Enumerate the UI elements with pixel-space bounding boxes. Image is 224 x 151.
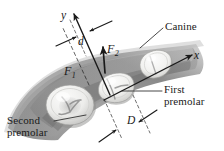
force-f1-label: F1 xyxy=(64,65,75,78)
canine-callout-label: Canine xyxy=(165,21,197,33)
D-dimension-label: D xyxy=(127,114,135,126)
first-premolar-callout-line2: premolar xyxy=(164,96,205,108)
D-dimension-arrow-right xyxy=(139,110,157,122)
d-dimension-arrow-left xyxy=(56,37,76,46)
force-f2-label: F2 xyxy=(107,43,118,56)
D-dimension-witness-right xyxy=(133,95,150,133)
force-f2-base: F xyxy=(107,42,114,56)
force-f2-subscript: 2 xyxy=(115,49,119,58)
force-f1-subscript: 1 xyxy=(72,71,76,80)
d-dimension-label: d xyxy=(78,35,84,47)
D-dimension-arrow-left xyxy=(99,130,116,142)
y-axis-label: y xyxy=(61,9,66,21)
dental-arch-figure: y x d D F2 F1 Canine First premolar Seco… xyxy=(0,0,224,151)
force-f1-base: F xyxy=(64,64,71,78)
second-premolar-callout-line2: premolar xyxy=(7,127,48,139)
x-axis-label: x xyxy=(194,49,199,61)
D-dimension-witness-left xyxy=(104,99,122,139)
